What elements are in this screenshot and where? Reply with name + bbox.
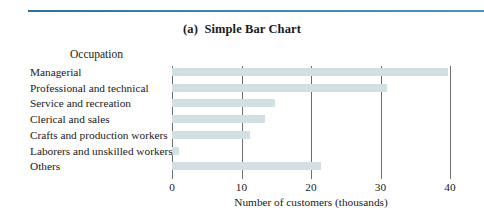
bar <box>172 99 275 107</box>
bar <box>172 162 321 170</box>
bar-chart-plot-area: ManagerialProfessional and technicalServ… <box>0 0 484 222</box>
category-label: Crafts and production workers <box>30 129 168 141</box>
category-label: Managerial <box>30 66 81 78</box>
category-label: Clerical and sales <box>30 113 110 125</box>
x-tick-label: 0 <box>169 181 175 193</box>
bar <box>172 84 387 92</box>
x-tick-label: 10 <box>236 181 247 193</box>
x-tick-label: 20 <box>305 181 316 193</box>
category-label: Others <box>30 160 60 172</box>
bar <box>172 115 265 123</box>
gridline-40 <box>450 66 451 179</box>
category-label: Professional and technical <box>30 82 149 94</box>
bar <box>172 147 179 155</box>
x-tick-label: 30 <box>375 181 386 193</box>
x-axis-title: Number of customers (thousands) <box>172 196 450 208</box>
bar <box>172 131 250 139</box>
category-label: Laborers and unskilled workers <box>30 145 173 157</box>
bar <box>172 68 448 76</box>
x-tick-label: 40 <box>444 181 455 193</box>
category-label: Service and recreation <box>30 97 131 109</box>
